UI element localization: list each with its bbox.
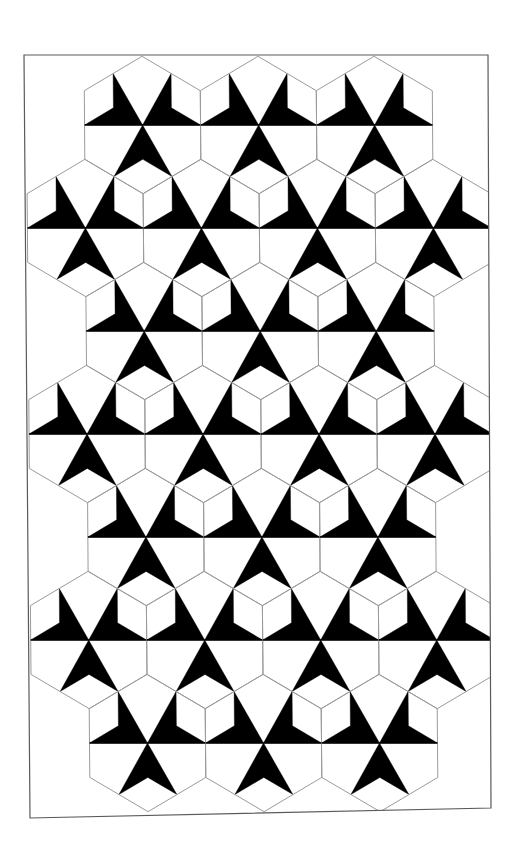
tessellation-figure (0, 0, 518, 855)
dart-upper-left (259, 177, 317, 229)
frame-border (24, 55, 491, 818)
dart-upper-left (90, 692, 148, 744)
dart-upper-right (205, 589, 263, 641)
dart-bottom (230, 125, 288, 177)
dart-bottom (349, 537, 407, 589)
dart-upper-left (29, 383, 87, 435)
dart-upper-left (261, 383, 319, 435)
dart-upper-left (85, 74, 143, 126)
dart-upper-right (317, 177, 375, 229)
dart-upper-left (377, 383, 435, 435)
dart-upper-left (147, 589, 205, 641)
dart-upper-right (260, 280, 318, 332)
dart-upper-right (143, 74, 201, 126)
dart-bottom (176, 640, 234, 692)
dart-bottom (114, 125, 172, 177)
dart-bottom (57, 228, 115, 280)
dart-upper-left (379, 589, 437, 641)
dart-upper-right (262, 486, 320, 538)
dart-upper-right (264, 692, 322, 744)
dart-upper-right (437, 589, 495, 641)
dart-bottom (292, 640, 350, 692)
dart-upper-left (322, 692, 380, 744)
dart-bottom (290, 434, 348, 486)
dart-bottom (405, 228, 463, 280)
dart-bottom (406, 434, 464, 486)
dart-upper-right (433, 177, 491, 229)
dart-upper-right (203, 383, 261, 435)
dart-upper-right (89, 589, 147, 641)
dart-bottom (232, 331, 290, 383)
dart-bottom (116, 331, 174, 383)
dart-upper-right (321, 589, 379, 641)
dart-upper-right (378, 486, 436, 538)
dart-upper-right (376, 280, 434, 332)
dart-upper-right (85, 177, 143, 229)
dart-bottom (174, 434, 232, 486)
dart-bottom (351, 743, 409, 795)
dart-upper-right (146, 486, 204, 538)
dart-upper-right (375, 74, 433, 126)
dart-bottom (348, 331, 406, 383)
dart-upper-left (31, 589, 89, 641)
dart-upper-right (259, 74, 317, 126)
dart-bottom (289, 228, 347, 280)
dart-upper-left (145, 383, 203, 435)
dart-upper-left (86, 280, 144, 332)
dart-bottom (119, 743, 177, 795)
dart-upper-left (88, 486, 146, 538)
dart-bottom (173, 228, 231, 280)
dart-upper-left (263, 589, 321, 641)
dart-upper-left (206, 692, 264, 744)
dart-bottom (117, 537, 175, 589)
dart-bottom (233, 537, 291, 589)
dart-upper-right (380, 692, 438, 744)
dart-bottom (58, 434, 116, 486)
dart-upper-right (201, 177, 259, 229)
dart-upper-right (87, 383, 145, 435)
dart-upper-right (319, 383, 377, 435)
dart-bottom (408, 640, 466, 692)
dart-upper-right (435, 383, 493, 435)
dart-upper-left (204, 486, 262, 538)
dart-upper-left (202, 280, 260, 332)
dart-upper-left (375, 177, 433, 229)
dart-bottom (346, 125, 404, 177)
dart-upper-left (143, 177, 201, 229)
dart-upper-right (148, 692, 206, 744)
dart-bottom (235, 743, 293, 795)
dart-bottom (60, 640, 118, 692)
hex-tiling (27, 56, 495, 811)
dart-upper-right (144, 280, 202, 332)
dart-upper-left (318, 280, 376, 332)
dart-upper-left (320, 486, 378, 538)
dart-upper-left (317, 74, 375, 126)
dart-upper-left (201, 74, 259, 126)
dart-upper-left (27, 177, 85, 229)
